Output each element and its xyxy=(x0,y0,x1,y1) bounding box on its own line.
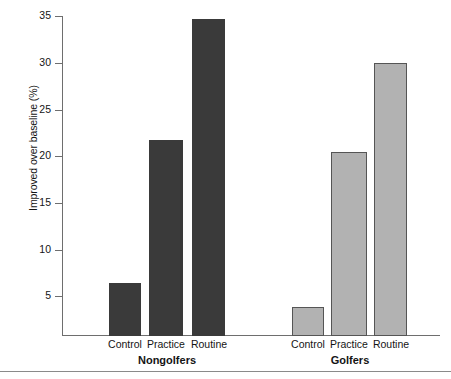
bar-golfers-control xyxy=(292,307,324,336)
bar-nongolfers-practice xyxy=(149,140,183,336)
bar-chart-figure: Improved over baseline (%) 35 30 25 20 1… xyxy=(0,0,451,379)
category-label-golfers-routine: Routine xyxy=(361,338,421,350)
footer-divider xyxy=(0,371,451,372)
bar-golfers-practice xyxy=(331,152,367,336)
bar-golfers-routine xyxy=(374,63,407,336)
bar-nongolfers-control xyxy=(109,283,141,335)
group-label-golfers: Golfers xyxy=(320,354,380,366)
bars-layer xyxy=(0,0,451,336)
group-label-nongolfers: Nongolfers xyxy=(137,354,197,366)
bar-nongolfers-routine xyxy=(192,19,225,335)
category-label-nongolfers-routine: Routine xyxy=(179,338,239,350)
